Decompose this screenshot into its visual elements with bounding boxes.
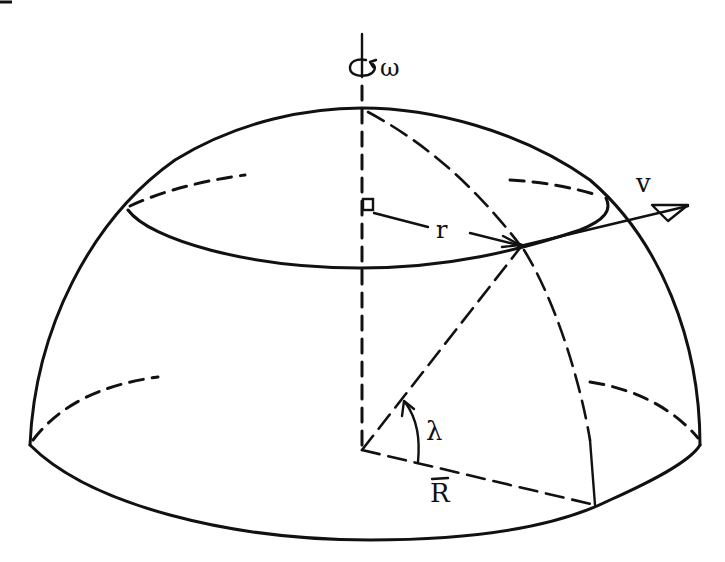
meridian-arc-bottom: [590, 440, 595, 505]
latitude-circle-front: [128, 198, 608, 268]
equator-back-right: [590, 382, 698, 438]
lambda-label: λ: [426, 416, 442, 446]
v-label: v: [635, 168, 651, 198]
angle-lambda-arc: [405, 402, 419, 462]
latitude-circle-back-right: [510, 180, 600, 196]
equator-front: [30, 445, 700, 540]
latitude-circle-back-left: [130, 175, 245, 206]
equator-back-left: [33, 377, 158, 440]
point-p: [517, 243, 523, 249]
R-label: R: [430, 478, 451, 508]
r-label: r: [436, 216, 448, 244]
velocity-v-shaft: [520, 206, 688, 246]
radius-r-line: [374, 213, 428, 227]
radius-R-line: [362, 450, 595, 505]
rotating-hemisphere-diagram: ω r v R λ: [0, 0, 725, 562]
R-label-overbar: [432, 478, 448, 479]
right-angle-marker: [363, 199, 373, 210]
omega-label: ω: [380, 54, 400, 82]
hemisphere-outline: [30, 108, 700, 445]
meridian-arc-lower: [524, 250, 590, 440]
